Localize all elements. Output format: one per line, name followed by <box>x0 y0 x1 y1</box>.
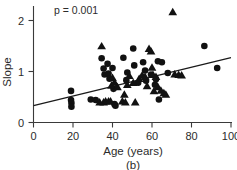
data-point-circle <box>214 65 221 72</box>
series-triangles <box>95 8 186 106</box>
data-point-circle <box>156 96 163 103</box>
p-value-annotation: p = 0.001 <box>54 4 98 16</box>
data-point-circle <box>201 43 208 50</box>
data-point-circle <box>109 65 116 72</box>
data-point-circle <box>130 45 137 52</box>
y-tick-label-2: 2 <box>18 15 24 27</box>
x-axis-label: Age (years) <box>103 145 163 157</box>
data-point-circle <box>120 54 127 61</box>
x-axis-ticks <box>34 123 232 128</box>
x-tick-label-0: 0 <box>30 130 36 142</box>
data-point-circle <box>98 55 105 62</box>
data-point-circle <box>68 103 75 110</box>
scatter-plot-figure: 2 1 0 0 20 40 60 80 100 Slope Age (years… <box>0 0 237 170</box>
data-point-circle <box>165 70 172 77</box>
y-tick-label-1: 1 <box>18 66 24 78</box>
x-tick-label-20: 20 <box>67 130 79 142</box>
data-point-triangle <box>97 42 106 49</box>
panel-label: (b) <box>126 159 140 170</box>
data-point-triangle <box>120 90 129 97</box>
data-point-circle <box>131 62 138 69</box>
data-point-triangle <box>148 63 157 70</box>
data-point-circle <box>68 88 75 95</box>
x-tick-label-40: 40 <box>106 130 118 142</box>
y-axis-ticks <box>29 21 34 123</box>
data-points-layer <box>68 8 221 110</box>
plot-canvas: 2 1 0 0 20 40 60 80 100 Slope Age (years… <box>0 0 237 170</box>
y-axis-label: Slope <box>1 57 13 86</box>
y-tick-label-0: 0 <box>18 117 24 129</box>
data-point-circle <box>140 59 147 66</box>
data-point-triangle <box>131 98 140 105</box>
x-tick-label-60: 60 <box>146 130 158 142</box>
data-point-triangle <box>168 8 177 15</box>
data-point-circle <box>159 59 166 66</box>
x-tick-label-80: 80 <box>185 130 197 142</box>
x-tick-label-100: 100 <box>222 130 237 142</box>
